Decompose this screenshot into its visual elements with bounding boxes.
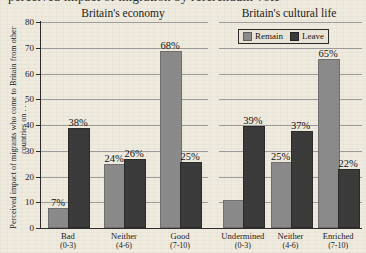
x-axis-category-label: Good(7-10): [170, 232, 190, 251]
bar-leave-good: [180, 162, 202, 228]
y-axis-tick-label: 30: [25, 146, 34, 155]
x-axis-category-label: Undermined(0-3): [221, 232, 264, 251]
bar-remain-undermined: [223, 200, 245, 228]
chart-legend: Remain Leave: [238, 29, 329, 44]
gridline: [40, 48, 362, 49]
panel-title-economy: Britain's economy: [41, 7, 205, 19]
x-category-name: Neither: [111, 231, 137, 241]
y-axis-tick-label: 50: [25, 95, 34, 104]
x-axis-category-label: Neither(4-6): [278, 232, 304, 251]
x-axis-line: [40, 228, 362, 229]
bar-remain-good: [160, 51, 182, 228]
y-axis-tick-label: 40: [25, 121, 34, 130]
x-category-range: (4-6): [278, 241, 304, 250]
legend-swatch-leave: [290, 32, 299, 41]
x-category-name: Neither: [278, 231, 304, 241]
bar-value-label: 22%: [339, 158, 358, 169]
gridline: [40, 125, 362, 126]
x-category-range: (4-6): [111, 241, 137, 250]
x-category-name: Undermined: [221, 231, 264, 241]
x-category-range: (0-3): [221, 241, 264, 250]
x-category-range: (7-10): [323, 241, 354, 250]
x-category-name: Good: [170, 231, 189, 241]
gridline: [40, 22, 362, 23]
bar-value-label: 39%: [243, 115, 262, 126]
plot-area: 010203040506070807%38%24%26%68%25%39%25%…: [40, 22, 362, 228]
panel-title-culture: Britain's cultural life: [212, 7, 366, 19]
y-axis-tick-label: 70: [25, 43, 34, 52]
x-axis-category-label: Neither(4-6): [111, 232, 137, 251]
bar-value-label: 24%: [104, 153, 123, 164]
x-category-range: (7-10): [170, 241, 190, 250]
legend-item-leave: Leave: [290, 31, 324, 41]
bar-value-label: 7%: [51, 197, 65, 208]
gridline: [40, 99, 362, 100]
y-axis-tick-label: 10: [25, 198, 34, 207]
y-axis-tick-label: 60: [25, 69, 34, 78]
legend-item-remain: Remain: [243, 31, 283, 41]
y-axis-tick-label: 0: [30, 224, 35, 233]
bar-value-label: 26%: [124, 148, 143, 159]
bar-leave-undermined: [243, 126, 265, 228]
bar-value-label: 68%: [160, 40, 179, 51]
x-axis-category-label: Enriched(7-10): [323, 232, 354, 251]
bar-value-label: 25%: [271, 151, 290, 162]
y-axis-tick-label: 20: [25, 172, 34, 181]
bar-remain-enriched: [318, 59, 340, 228]
bar-remain-neither: [271, 162, 293, 228]
bar-value-label: 25%: [180, 151, 199, 162]
bar-remain-bad: [48, 208, 70, 228]
y-axis-tick-label: 80: [25, 18, 34, 27]
bar-leave-bad: [68, 128, 90, 228]
bar-value-label: 65%: [319, 48, 338, 59]
y-axis-line: [40, 21, 41, 229]
x-category-name: Bad: [61, 231, 75, 241]
bar-leave-enriched: [338, 169, 360, 228]
clipped-headline: perceived impact of migration by referen…: [0, 0, 366, 7]
legend-swatch-remain: [243, 32, 252, 41]
panel-separator-gap: [208, 22, 219, 228]
bar-leave-neither: [124, 159, 146, 228]
bar-value-label: 38%: [68, 117, 87, 128]
x-category-name: Enriched: [323, 231, 354, 241]
gridline: [40, 74, 362, 75]
legend-label-leave: Leave: [302, 31, 324, 41]
bar-chart-figure: perceived impact of migration by referen…: [0, 0, 366, 253]
bar-leave-neither: [291, 131, 313, 228]
x-axis-category-label: Bad(0-3): [60, 232, 76, 251]
legend-label-remain: Remain: [255, 31, 283, 41]
bar-remain-neither: [104, 164, 126, 228]
x-category-range: (0-3): [60, 241, 76, 250]
bar-value-label: 37%: [291, 120, 310, 131]
